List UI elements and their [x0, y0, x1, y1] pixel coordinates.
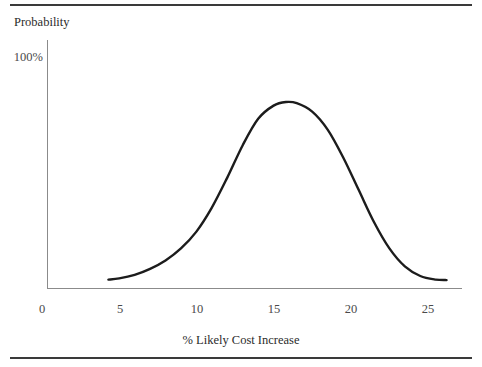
x-axis-tick-label-25: 25 — [408, 302, 448, 317]
x-axis-tick-label-10: 10 — [177, 302, 217, 317]
figure-container: Probability 100% 0 5 10 15 20 25 % Likel… — [0, 0, 482, 367]
x-axis-tick-label-15: 15 — [254, 302, 294, 317]
x-axis-title: % Likely Cost Increase — [0, 333, 482, 348]
probability-curve-line — [108, 102, 446, 280]
x-axis-tick-label-20: 20 — [331, 302, 371, 317]
bottom-divider-rule — [10, 357, 472, 359]
x-axis-tick-label-0: 0 — [22, 302, 62, 317]
x-axis-tick-label-5: 5 — [100, 302, 140, 317]
